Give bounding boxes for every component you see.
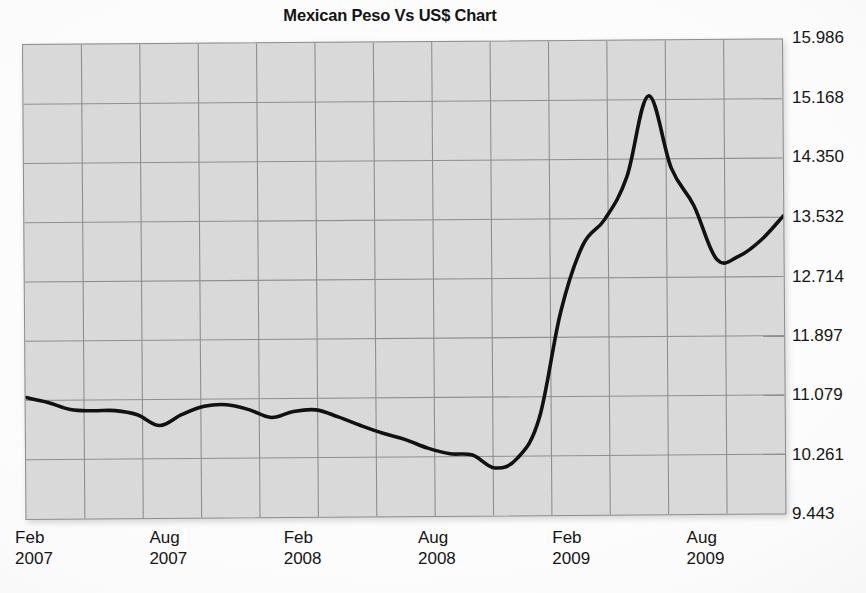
x-axis-tick-label: Aug2007 [149,528,187,569]
data-line-series [23,39,785,519]
x-tick-month: Feb [15,528,53,549]
x-tick-year: 2007 [15,549,53,570]
x-axis-tick-label: Feb2008 [284,528,322,569]
x-tick-month: Aug [687,528,725,549]
chart-figure: Mexican Peso Vs US$ Chart 15.98615.16814… [0,0,866,593]
y-axis-tick-label: 11.897 [792,326,843,346]
x-tick-year: 2007 [149,549,187,570]
x-axis: Feb2007Aug2007Feb2008Aug2008Feb2009Aug20… [0,528,790,590]
y-axis-tick-label: 10.261 [792,445,844,465]
x-tick-year: 2009 [552,549,590,570]
y-axis-tick-label: 9.443 [792,504,835,524]
x-axis-tick-label: Aug2008 [418,528,456,569]
y-axis-tick-label: 14.350 [792,147,844,167]
x-tick-month: Feb [552,528,590,549]
x-tick-month: Aug [149,528,187,549]
x-tick-year: 2008 [418,549,456,570]
x-axis-tick-label: Feb2007 [15,528,53,569]
plot-area [22,38,786,520]
x-tick-year: 2009 [687,549,725,570]
y-axis: 15.98615.16814.35013.53212.71411.89711.0… [792,0,866,593]
x-axis-tick-label: Aug2009 [687,528,725,569]
x-tick-month: Aug [418,528,456,549]
chart-title: Mexican Peso Vs US$ Chart [0,6,780,25]
y-axis-tick-label: 11.079 [792,385,843,405]
y-axis-tick-label: 13.532 [792,207,844,227]
y-axis-tick-label: 15.168 [792,88,844,108]
x-tick-month: Feb [284,528,322,549]
x-axis-tick-label: Feb2009 [552,528,590,569]
plot-wrapper [22,38,786,520]
y-axis-tick-label: 12.714 [792,267,844,287]
x-tick-year: 2008 [284,549,322,570]
y-axis-tick-label: 15.986 [792,28,844,48]
